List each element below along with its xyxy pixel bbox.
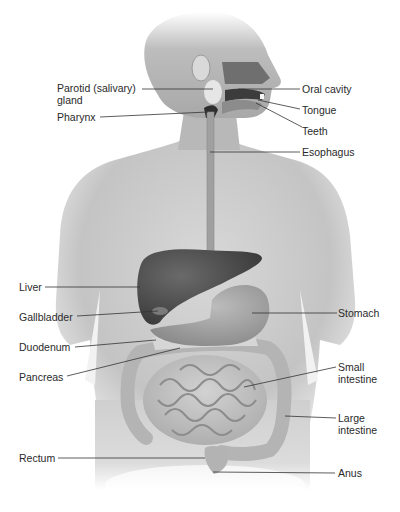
label-pharynx: Pharynx: [57, 111, 96, 123]
label-pancreas: Pancreas: [19, 371, 63, 383]
label-rectum: Rectum: [19, 452, 55, 464]
label-oral-cavity: Oral cavity: [302, 83, 352, 95]
label-parotid-line2: gland: [57, 94, 83, 106]
label-tongue: Tongue: [302, 104, 336, 116]
small-intestine: [143, 355, 267, 445]
label-teeth: Teeth: [302, 125, 328, 137]
label-anus: Anus: [338, 467, 362, 479]
label-small-intestine: Small intestine: [338, 361, 398, 385]
label-large-intestine-line2: intestine: [338, 424, 377, 436]
label-parotid-line1: Parotid (salivary): [57, 82, 136, 94]
label-duodenum: Duodenum: [19, 341, 70, 353]
head: [144, 12, 281, 118]
label-stomach: Stomach: [338, 307, 379, 319]
label-small-intestine-line1: Small: [338, 361, 364, 373]
label-gallbladder: Gallbladder: [19, 311, 73, 323]
label-large-intestine: Large intestine: [338, 412, 398, 436]
label-parotid-gland: Parotid (salivary) gland: [57, 82, 147, 106]
label-esophagus: Esophagus: [302, 146, 355, 158]
label-liver: Liver: [19, 281, 42, 293]
label-large-intestine-line1: Large: [338, 412, 365, 424]
label-small-intestine-line2: intestine: [338, 373, 377, 385]
esophagus-tube: [207, 112, 214, 262]
